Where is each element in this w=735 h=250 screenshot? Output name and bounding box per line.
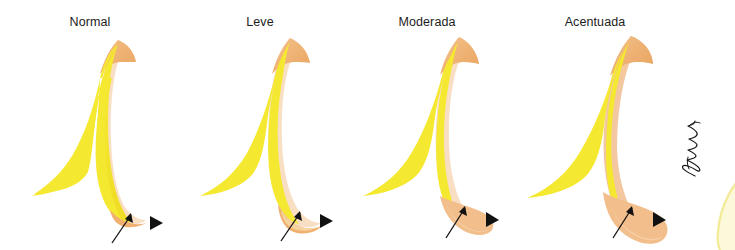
body-yellow bbox=[34, 44, 131, 222]
adjacent-figure-edge-crop bbox=[706, 168, 735, 250]
anatomy-illustration-leve bbox=[170, 26, 350, 250]
anatomy-illustration-acentuada bbox=[505, 26, 685, 250]
body-fill-main bbox=[436, 42, 464, 225]
marker-arrowhead-normal bbox=[150, 216, 163, 230]
anatomical-grading-figure: Normal bbox=[0, 0, 735, 250]
body-fill-main bbox=[268, 42, 299, 224]
panel-acentuada[interactable]: Acentuada bbox=[505, 0, 685, 250]
panel-normal[interactable]: Normal bbox=[0, 0, 180, 250]
marker-arrowhead-leve bbox=[320, 214, 333, 228]
anatomy-illustration-moderada bbox=[337, 26, 517, 250]
panel-leve[interactable]: Leve bbox=[170, 0, 350, 250]
anatomy-illustration-normal bbox=[0, 26, 180, 250]
panel-moderada[interactable]: Moderada bbox=[337, 0, 517, 250]
